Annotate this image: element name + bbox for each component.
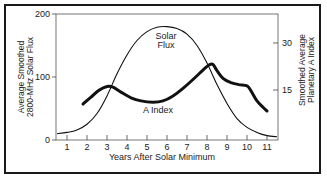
- y-left-tick-label: 200: [35, 9, 50, 19]
- svg-text:2800-MHz Solar Flux: 2800-MHz Solar Flux: [25, 36, 35, 117]
- y-right-axis-title: Smoothed Average Planetary A Index: [297, 34, 316, 106]
- x-tick-label: 9: [224, 142, 229, 152]
- chart-svg: 200 100 0 Average Smoothed 2800-MHz Sola…: [0, 0, 327, 180]
- x-tick-label: 4: [124, 142, 129, 152]
- right-axis: 30 15: [273, 38, 292, 95]
- x-tick-label: 11: [262, 142, 271, 152]
- y-left-tick-label: 0: [45, 135, 50, 145]
- left-axis: 200 100 0: [35, 9, 56, 145]
- x-tick-label: 8: [204, 142, 209, 152]
- y-right-tick-label: 30: [282, 38, 292, 48]
- y-left-tick-label: 100: [35, 72, 50, 82]
- x-tick-label: 6: [164, 142, 169, 152]
- x-tick-label: 1: [64, 142, 69, 152]
- y-right-tick-label: 15: [282, 85, 292, 95]
- x-tick-label: 3: [104, 142, 109, 152]
- x-tick-label: 5: [144, 142, 149, 152]
- x-axis-title: Years After Solar Minimum: [109, 152, 215, 162]
- x-tick-label: 7: [184, 142, 189, 152]
- solar-flux-label-line2: Flux: [157, 40, 175, 50]
- svg-text:Planetary A Index: Planetary A Index: [306, 36, 316, 103]
- x-tick-label: 2: [84, 142, 89, 152]
- y-left-axis-title: Average Smoothed 2800-MHz Solar Flux: [16, 36, 35, 117]
- a-index-line: [83, 64, 267, 111]
- x-axis: 1234567891011: [64, 135, 271, 152]
- a-index-label: A Index: [143, 105, 174, 115]
- x-tick-label: 10: [242, 142, 252, 152]
